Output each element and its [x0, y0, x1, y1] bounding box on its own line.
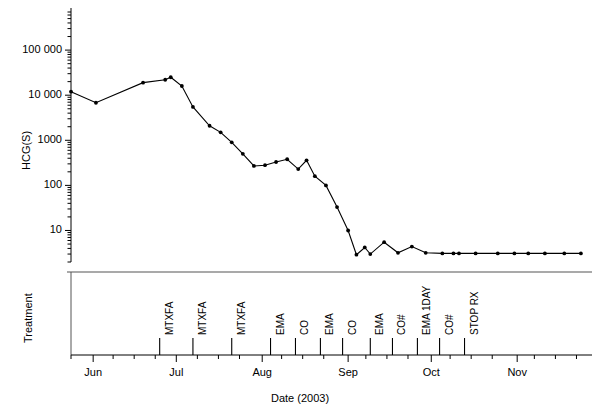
data-point	[263, 163, 267, 167]
x-tick-label: Nov	[492, 366, 542, 378]
treatment-event-label: CO	[299, 320, 310, 335]
data-point	[141, 81, 145, 85]
data-point	[440, 252, 444, 256]
data-point	[335, 205, 339, 209]
data-point	[169, 75, 173, 79]
treatment-event-label: EMA	[275, 313, 286, 335]
y-tick-label: 1000	[0, 133, 62, 145]
y-tick-label: 100	[0, 178, 62, 190]
treatment-event-label: MTXFA	[164, 302, 175, 335]
data-point	[180, 84, 184, 88]
data-point	[562, 252, 566, 256]
data-point	[230, 140, 234, 144]
chart-canvas	[0, 0, 600, 415]
data-point	[457, 252, 461, 256]
data-point	[208, 124, 212, 128]
x-tick-label: Oct	[406, 366, 456, 378]
data-point	[163, 78, 167, 82]
data-point	[382, 240, 386, 244]
data-point	[474, 252, 478, 256]
treatment-event-label: EMA	[374, 313, 385, 335]
chart-figure: HCG(S) Treatment Date (2003) 10100100010…	[0, 0, 600, 415]
treatment-event-label: MTXFA	[197, 302, 208, 335]
data-point	[424, 251, 428, 255]
treatment-event-label: CO#	[444, 314, 455, 335]
data-point	[296, 167, 300, 171]
data-point	[513, 252, 517, 256]
x-axis-title: Date (2003)	[0, 392, 600, 404]
y-tick-label: 10	[0, 223, 62, 235]
y-tick-label: 100 000	[0, 43, 62, 55]
data-point	[313, 174, 317, 178]
treatment-event-label: MTXFA	[236, 302, 247, 335]
data-point	[526, 252, 530, 256]
data-point	[274, 160, 278, 164]
data-point	[94, 101, 98, 105]
x-tick-label: Sep	[323, 366, 373, 378]
treatment-event-label: CO	[347, 320, 358, 335]
data-point	[252, 164, 256, 168]
treatment-event-label: STOP RX	[469, 291, 480, 335]
x-tick-label: Jun	[68, 366, 118, 378]
x-tick-label: Aug	[237, 366, 287, 378]
data-point	[355, 253, 359, 257]
data-point	[543, 252, 547, 256]
data-point	[241, 152, 245, 156]
data-point	[305, 158, 309, 162]
treatment-event-label: CO#	[396, 314, 407, 335]
treatment-event-label: EMA 1DAY	[421, 286, 432, 335]
data-point	[219, 130, 223, 134]
data-point	[452, 252, 456, 256]
data-point	[496, 252, 500, 256]
data-point	[396, 251, 400, 255]
treatment-panel-title: Treatment	[22, 293, 34, 343]
data-point	[368, 252, 372, 256]
hcg-series-line	[71, 77, 581, 254]
data-point	[324, 183, 328, 187]
data-point	[285, 157, 289, 161]
y-tick-label: 10 000	[0, 88, 62, 100]
data-point	[346, 229, 350, 233]
data-point	[579, 252, 583, 256]
data-point	[363, 246, 367, 250]
x-tick-label: Jul	[151, 366, 201, 378]
data-point	[410, 245, 414, 249]
data-point	[69, 90, 73, 94]
treatment-event-label: EMA	[324, 313, 335, 335]
data-point	[191, 105, 195, 109]
